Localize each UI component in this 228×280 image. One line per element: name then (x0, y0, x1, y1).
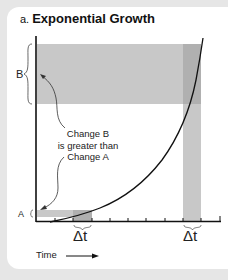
delta-t-right-label: Δt (183, 227, 197, 244)
delta-t-left-label: Δt (73, 227, 87, 244)
annotation-text: Change B is greater than Change A (56, 128, 120, 163)
brace-a-icon (30, 210, 33, 217)
arrow-to-a (44, 157, 64, 208)
change-b-band (37, 44, 201, 104)
time-arrow-icon (92, 254, 99, 259)
label-a: A (18, 209, 24, 219)
arrow-head-a-icon (40, 205, 47, 210)
brace-b-icon (24, 44, 32, 104)
annotation-line-2: is greater than (56, 140, 120, 152)
label-b: B (16, 68, 23, 80)
x-axis-label: Time (36, 249, 57, 260)
annotation-line-3: Change A (56, 151, 120, 163)
annotation-line-1: Change B (56, 128, 120, 140)
